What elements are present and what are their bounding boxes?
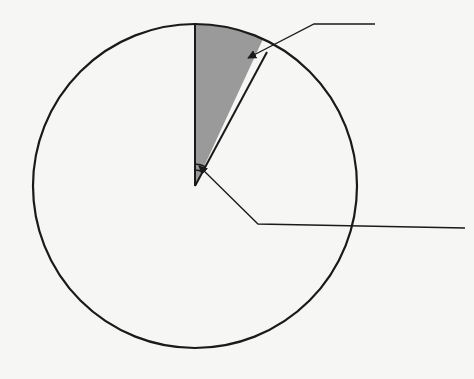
shaded-sector [195,24,263,186]
circle-sector-diagram [0,0,474,379]
angle-leader-line [199,166,465,228]
diagram-canvas [0,0,474,379]
